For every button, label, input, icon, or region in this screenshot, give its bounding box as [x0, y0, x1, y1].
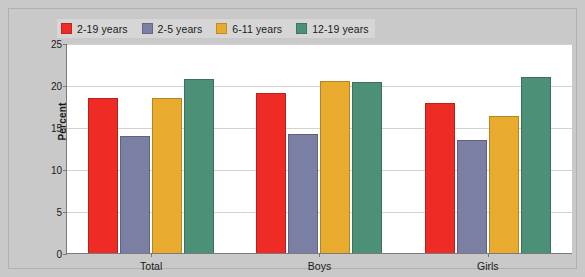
y-tick-label: 20: [36, 81, 62, 92]
x-tick-mark: [151, 253, 152, 257]
legend-swatch-icon: [61, 23, 72, 34]
bars: [404, 44, 572, 253]
chart-legend: 2-19 years2-5 years6-11 years12-19 years: [57, 19, 375, 38]
legend-label: 2-5 years: [158, 23, 203, 35]
bar[interactable]: [320, 81, 350, 253]
bar[interactable]: [457, 140, 487, 253]
bar[interactable]: [425, 103, 455, 253]
bar[interactable]: [88, 98, 118, 253]
bar[interactable]: [256, 93, 286, 253]
bars: [235, 44, 403, 253]
x-tick-label: Girls: [404, 260, 572, 272]
bars: [67, 44, 235, 253]
legend-swatch-icon: [142, 23, 153, 34]
bar[interactable]: [288, 134, 318, 253]
x-tick-mark: [488, 253, 489, 257]
y-tick-label: 15: [36, 123, 62, 134]
y-tick-mark: [63, 254, 67, 255]
x-tick-label: Boys: [235, 260, 403, 272]
legend-item[interactable]: 6-11 years: [216, 23, 282, 35]
bar[interactable]: [120, 136, 150, 253]
plot-wrapper: Percent 0510152025 TotalBoysGirls: [66, 44, 572, 254]
legend-label: 12-19 years: [312, 23, 369, 35]
bar-group: Girls: [404, 44, 572, 253]
legend-item[interactable]: 2-19 years: [61, 23, 128, 35]
bar[interactable]: [489, 116, 519, 253]
bar-groups: TotalBoysGirls: [67, 44, 572, 253]
bar[interactable]: [352, 82, 382, 253]
legend-item[interactable]: 2-5 years: [142, 23, 203, 35]
legend-item[interactable]: 12-19 years: [296, 23, 369, 35]
y-tick-label: 10: [36, 165, 62, 176]
y-tick-label: 25: [36, 39, 62, 50]
legend-label: 2-19 years: [77, 23, 128, 35]
bar-group: Boys: [235, 44, 403, 253]
bar-group: Total: [67, 44, 235, 253]
x-tick-label: Total: [67, 260, 235, 272]
legend-swatch-icon: [296, 23, 307, 34]
chart-card: 2-19 years2-5 years6-11 years12-19 years…: [8, 8, 577, 269]
bar[interactable]: [184, 79, 214, 253]
legend-label: 6-11 years: [232, 23, 282, 35]
legend-swatch-icon: [216, 23, 227, 34]
y-tick-label: 5: [36, 207, 62, 218]
bar[interactable]: [152, 98, 182, 253]
x-tick-mark: [319, 253, 320, 257]
chart-figure: 2-19 years2-5 years6-11 years12-19 years…: [0, 0, 585, 277]
plot-area: 0510152025 TotalBoysGirls: [66, 44, 572, 254]
y-tick-label: 0: [36, 249, 62, 260]
bar[interactable]: [521, 77, 551, 253]
